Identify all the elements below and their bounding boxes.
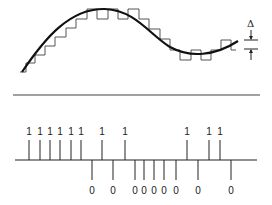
delta-modulation-diagram: Δ 11111101010000010110 [0,0,272,205]
bit-label: 0 [132,185,138,196]
analog-signal-curve [22,9,238,72]
bit-label: 0 [89,185,95,196]
bit-label: 1 [78,126,84,137]
bit-label: 0 [110,185,116,196]
bit-label: 1 [37,126,43,137]
bit-label: 1 [47,126,53,137]
staircase-approximation [20,9,236,72]
delta-symbol: Δ [247,18,254,29]
bit-label: 1 [184,126,190,137]
bit-label: 1 [26,126,32,137]
bit-label: 1 [206,126,212,137]
bit-label: 1 [217,126,223,137]
bit-label: 0 [161,185,167,196]
bit-label: 1 [68,126,74,137]
bit-label: 0 [195,185,201,196]
bit-label: 0 [151,185,157,196]
pulse-train: 11111101010000010110 [26,126,234,196]
bit-label: 1 [122,126,128,137]
bit-label: 0 [141,185,147,196]
delta-step-annotation: Δ [244,18,258,60]
bit-label: 1 [57,126,63,137]
bit-label: 0 [228,185,234,196]
bit-label: 1 [99,126,105,137]
bit-label: 0 [173,185,179,196]
